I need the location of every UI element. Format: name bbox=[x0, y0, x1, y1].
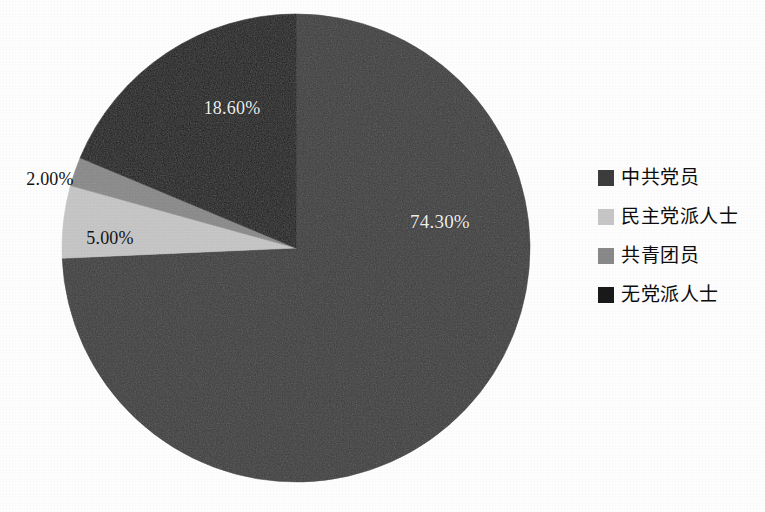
pie-slices-group bbox=[62, 14, 530, 482]
legend-swatch-icon bbox=[598, 170, 614, 186]
legend-item-zhonggong-dangyuan[interactable]: 中共党员 bbox=[598, 158, 763, 197]
legend-swatch-icon bbox=[598, 248, 614, 264]
legend-item-label: 共青团员 bbox=[621, 246, 699, 265]
legend-item-gongqingtuan-yuan[interactable]: 共青团员 bbox=[598, 236, 763, 275]
legend-item-label: 无党派人士 bbox=[621, 285, 719, 304]
legend-item-label: 中共党员 bbox=[621, 168, 699, 187]
legend-item-minzhu-dangpai-renshi[interactable]: 民主党派人士 bbox=[598, 197, 763, 236]
legend-item-label: 民主党派人士 bbox=[621, 207, 738, 226]
legend-swatch-icon bbox=[598, 287, 614, 303]
legend: 中共党员 民主党派人士 共青团员 无党派人士 bbox=[598, 158, 763, 314]
legend-item-wudangpai-renshi[interactable]: 无党派人士 bbox=[598, 275, 763, 314]
legend-swatch-icon bbox=[598, 209, 614, 225]
pie-chart: 74.30% 5.00% 2.00% 18.60% 中共党员 民主党派人士 共青… bbox=[0, 0, 765, 512]
